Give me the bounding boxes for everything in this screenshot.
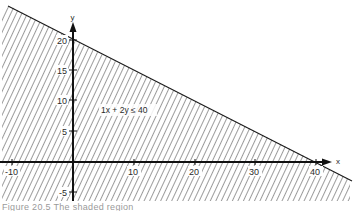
inequality-label: 1x + 2y ≤ 40	[101, 105, 148, 115]
x-tick-label: 30	[249, 167, 259, 177]
x-tick-label: -10	[5, 167, 18, 177]
x-tick-label: 40	[310, 167, 320, 177]
x-tick-label: 20	[189, 167, 199, 177]
figure-caption: Figure 20.5 The shaded region	[2, 202, 134, 211]
inequality-figure: x -10 10 20 30 40 y	[0, 0, 358, 211]
x-tick-label: 10	[128, 167, 138, 177]
y-tick-label: -5	[59, 188, 67, 198]
x-axis-label: x	[336, 157, 340, 166]
y-tick-label: 5	[62, 127, 67, 137]
shaded-region	[2, 6, 350, 201]
y-tick-label: 10	[57, 96, 67, 106]
y-tick-label: 20	[57, 36, 67, 46]
y-tick-label: 15	[57, 66, 67, 76]
y-axis-label: y	[71, 13, 75, 22]
x-axis-arrow-icon	[322, 159, 332, 166]
y-axis-arrow-icon	[70, 22, 77, 32]
chart-canvas: x -10 10 20 30 40 y	[0, 0, 358, 211]
